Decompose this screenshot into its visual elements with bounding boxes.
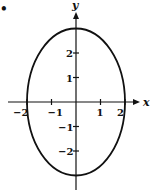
y-tick-label: 2 <box>66 48 73 59</box>
y-axis-arrow-icon <box>73 12 79 19</box>
x-tick-label: −2 <box>13 107 28 118</box>
x-tick-label: 2 <box>117 107 124 118</box>
y-axis-label: y <box>71 0 80 12</box>
problem-bullet: • <box>0 2 8 16</box>
x-tick-label: 1 <box>97 107 104 118</box>
y-tick-label: −2 <box>58 146 73 157</box>
ellipse-plot: • x y −2−112−2−112 <box>0 0 154 190</box>
y-tick-label: −1 <box>58 122 73 133</box>
y-tick-label: 1 <box>66 73 73 84</box>
x-axis-arrow-icon <box>133 99 140 105</box>
x-axis-label: x <box>142 96 150 109</box>
x-tick-label: −1 <box>48 107 63 118</box>
